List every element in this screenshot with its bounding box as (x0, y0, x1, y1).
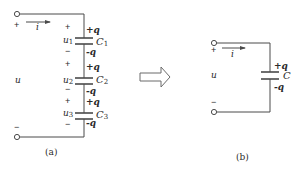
voltage-label-b: u (211, 71, 217, 80)
c3-voltage-label: u3 (63, 109, 73, 119)
terminal-top-a-polarity: + (14, 21, 19, 30)
terminal-top-a-icon (14, 11, 19, 16)
caption-a: (a) (45, 148, 57, 157)
c1-label: C1 (96, 37, 108, 48)
c2-subscript: 2 (104, 78, 108, 86)
c-bottom-charge: -q (274, 83, 284, 92)
c1-voltage-label: u1 (63, 36, 73, 46)
c3-voltage-subscript: 3 (69, 111, 73, 119)
terminal-top-b-polarity: + (211, 46, 216, 55)
c1-voltage-subscript: 1 (69, 38, 73, 46)
c3-subscript: 3 (104, 113, 108, 121)
c3-label: C3 (96, 110, 108, 121)
c2-label: C2 (96, 75, 108, 86)
c1-name: C (96, 36, 104, 47)
capacitor-c-icon (261, 72, 279, 79)
c3-name: C (96, 109, 104, 120)
capacitor-c2-icon (75, 78, 93, 84)
c-label: C (283, 71, 291, 81)
c1-subscript: 1 (104, 40, 108, 48)
current-arrow-b-icon (222, 46, 246, 50)
circuit-b-wires (217, 43, 270, 112)
current-label-b: i (231, 50, 234, 59)
c3-plus-sign: + (65, 97, 70, 106)
c2-top-charge: +q (86, 63, 100, 72)
terminal-bottom-a-polarity: − (14, 123, 19, 132)
c3-top-charge: +q (86, 98, 100, 107)
c1-top-charge: +q (86, 26, 100, 35)
series-capacitor-figure: + i − u (a) + u1 − +q C1 -q + u2 − +q C2… (0, 0, 302, 172)
c2-bottom-charge: -q (86, 87, 96, 96)
circuit-a-wires (20, 14, 84, 137)
terminal-bottom-b-polarity: − (211, 98, 216, 107)
c3-bottom-charge: -q (86, 119, 96, 128)
c3-minus-sign: − (65, 120, 70, 129)
caption-b: (b) (236, 153, 249, 162)
terminal-bottom-b-icon (211, 109, 216, 114)
c2-name: C (96, 74, 104, 85)
c2-plus-sign: + (65, 60, 70, 69)
terminal-bottom-a-icon (14, 134, 19, 139)
c1-bottom-charge: -q (86, 48, 96, 57)
equivalence-arrow-icon (140, 67, 170, 87)
capacitor-c1-icon (75, 38, 93, 44)
c1-plus-sign: + (65, 23, 70, 32)
c2-minus-sign: − (65, 85, 70, 94)
c1-minus-sign: − (65, 47, 70, 56)
current-label-a: i (36, 23, 39, 32)
voltage-label-a: u (15, 76, 21, 85)
